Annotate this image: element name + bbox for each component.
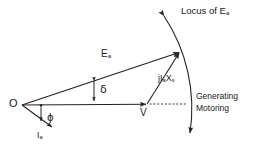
emf-phasor-Ea — [22, 53, 179, 106]
mode-motoring-label: Motoring — [196, 104, 229, 113]
mode-generating-label: Generating — [196, 92, 238, 101]
voltage-phasor-V — [22, 104, 146, 105]
current-label-sub: a — [40, 134, 43, 140]
emf-label-Ea: Ea — [101, 49, 111, 59]
locus-label-sub: a — [226, 10, 229, 16]
locus-label-prefix: Locus of — [181, 5, 220, 16]
power-angle-delta-label: δ — [100, 84, 107, 95]
reactance-drop-x-sub: s — [172, 77, 175, 83]
origin-label: O — [9, 98, 18, 109]
phasor-diagram-canvas — [0, 0, 259, 151]
voltage-label-V: V — [140, 108, 147, 118]
emf-label-main: E — [101, 48, 108, 59]
locus-label: Locus of Ea — [181, 6, 229, 17]
emf-label-sub: a — [108, 52, 111, 59]
current-label-Ia: Ia — [37, 131, 43, 141]
reactance-drop-label-jIaXs: jIaXs — [158, 74, 174, 84]
power-factor-angle-phi-label: ϕ — [47, 113, 54, 123]
phasor-diagram-root: O V Ea Ia jIaXs δ ϕ Locus of Ea Generati… — [0, 0, 259, 151]
